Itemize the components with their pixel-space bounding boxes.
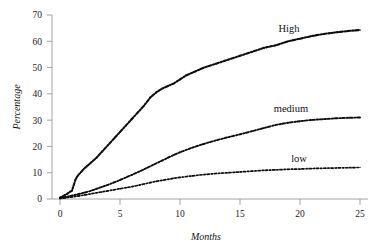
data-point (119, 179, 120, 180)
data-point (179, 177, 180, 178)
data-point (263, 47, 265, 49)
data-point (299, 168, 300, 169)
data-point (167, 157, 168, 158)
data-point (311, 119, 312, 120)
data-point (155, 163, 156, 164)
data-point (239, 134, 240, 135)
data-point (173, 154, 174, 155)
data-point (107, 184, 108, 185)
y-tick-label: 10 (33, 168, 43, 178)
data-point (335, 118, 336, 119)
series-label-high: High (279, 23, 301, 34)
data-point (107, 190, 108, 191)
data-point (59, 198, 60, 199)
data-point (113, 138, 115, 140)
data-point (239, 55, 241, 57)
data-point (287, 40, 289, 42)
y-tick-label: 30 (33, 116, 43, 126)
y-tick-label: 40 (33, 89, 43, 99)
data-point (215, 140, 216, 141)
data-point (335, 167, 336, 168)
data-point (347, 117, 348, 118)
data-point (77, 174, 79, 176)
data-point (89, 163, 91, 165)
data-point (359, 117, 360, 118)
data-point (287, 122, 288, 123)
data-point (251, 171, 252, 172)
y-axis-title: Percentage (11, 84, 22, 131)
data-point (347, 30, 349, 32)
data-point (227, 59, 229, 61)
data-point (113, 182, 114, 183)
data-point (275, 124, 276, 125)
y-tick-label: 50 (33, 63, 43, 73)
data-point (83, 194, 84, 195)
data-point (179, 79, 181, 81)
data-point (161, 88, 163, 90)
data-point (167, 179, 168, 180)
data-point (161, 180, 162, 181)
data-point (149, 97, 151, 99)
data-point (65, 197, 66, 198)
data-point (311, 168, 312, 169)
data-point (119, 188, 120, 189)
data-point (131, 186, 132, 187)
data-point (251, 51, 253, 53)
x-tick-label: 20 (295, 209, 305, 219)
data-point (95, 157, 97, 159)
y-tick-label: 0 (37, 194, 42, 204)
data-point (173, 178, 174, 179)
data-point (359, 167, 360, 168)
data-point (323, 118, 324, 119)
x-tick-label: 25 (355, 209, 365, 219)
x-tick-label: 5 (118, 209, 123, 219)
data-point (101, 151, 103, 153)
data-point (335, 31, 337, 33)
data-point (107, 144, 109, 146)
data-point (149, 182, 150, 183)
percentage-vs-months-chart: 010203040506070 0510152025 Months Percen… (0, 0, 384, 252)
data-point (299, 38, 301, 40)
data-point (137, 111, 139, 113)
data-point (227, 172, 228, 173)
data-point (83, 192, 84, 193)
data-point (101, 191, 102, 192)
data-point (275, 44, 277, 46)
data-point (125, 125, 127, 127)
data-point (137, 185, 138, 186)
data-point (359, 29, 361, 31)
data-point (75, 178, 77, 180)
series-label-medium: medium (274, 103, 308, 114)
data-point (167, 85, 169, 87)
data-point (89, 193, 90, 194)
data-point (66, 193, 68, 195)
data-point (131, 118, 133, 120)
data-point (77, 194, 78, 195)
y-tick-label: 70 (33, 10, 43, 20)
data-point (215, 63, 217, 65)
data-point (311, 35, 313, 37)
data-point (155, 92, 157, 94)
data-point (215, 173, 216, 174)
data-point (287, 169, 288, 170)
data-point (125, 177, 126, 178)
data-point (251, 130, 252, 131)
data-point (203, 67, 205, 69)
data-point (143, 169, 144, 170)
series-label-low: low (291, 153, 307, 164)
data-point (191, 147, 192, 148)
data-point (173, 82, 175, 84)
x-tick-label: 15 (235, 209, 245, 219)
data-point (227, 137, 228, 138)
data-point (137, 171, 138, 172)
data-point (239, 171, 240, 172)
x-axis-title: Months (190, 231, 221, 242)
data-point (347, 167, 348, 168)
data-point (131, 174, 132, 175)
data-point (125, 187, 126, 188)
data-point (299, 120, 300, 121)
data-point (71, 196, 72, 197)
data-point (263, 170, 264, 171)
data-point (179, 151, 180, 152)
data-point (83, 168, 85, 170)
